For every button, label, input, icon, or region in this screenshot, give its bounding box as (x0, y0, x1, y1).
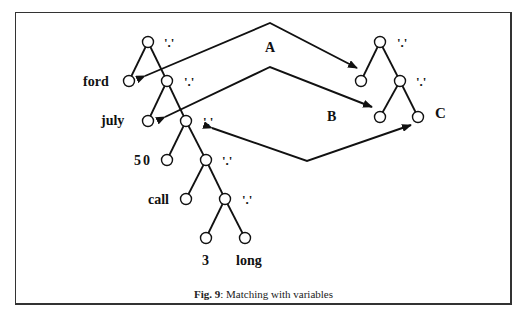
right-tree: '.' '.' C (356, 35, 446, 123)
right-root-node (375, 37, 386, 48)
label-july: july (100, 113, 124, 128)
left-tree-operator-labels: '.' '.' '.' '.' '.' (164, 35, 252, 207)
figure-caption: Fig. 9: Matching with variables (0, 288, 527, 300)
label-A: A (265, 40, 276, 55)
left-tree-leaf-labels: ford july 50 call 3 long (83, 74, 262, 268)
svg-text:'.': '.' (397, 35, 407, 50)
arrow-C (212, 125, 411, 161)
right-leaf-1-node (356, 76, 367, 87)
svg-text:'.': '.' (164, 35, 174, 50)
label-B: B (327, 109, 336, 124)
label-50: 50 (134, 153, 152, 168)
label-long: long (236, 253, 262, 268)
leaf-50-node (162, 155, 173, 166)
label-3: 3 (202, 253, 209, 268)
leaf-ford-node (124, 76, 135, 87)
label-ford: ford (83, 74, 109, 89)
svg-text:'.': '.' (242, 192, 252, 207)
left-node-2 (162, 76, 173, 87)
svg-text:'.': '.' (222, 153, 232, 168)
left-node-3 (181, 116, 192, 127)
leaf-3-node (201, 233, 212, 244)
caption-text: : Matching with variables (220, 288, 333, 300)
right-node-2 (395, 76, 406, 87)
tree-matching-diagram: '.' '.' '.' '.' '.' ford july 50 call 3 … (0, 0, 527, 318)
right-leaf-2-node (375, 112, 386, 123)
left-node-5 (220, 194, 231, 205)
leaf-july-node (143, 116, 154, 127)
svg-text:'.': '.' (416, 74, 426, 89)
left-node-4 (201, 155, 212, 166)
matching-arrows: A B (145, 23, 411, 161)
left-tree-edges (129, 42, 245, 238)
caption-prefix: Fig. 9 (194, 288, 220, 300)
arrow-B (165, 67, 372, 117)
left-root-node (143, 37, 154, 48)
svg-text:'.': '.' (184, 74, 194, 89)
label-variable-C: C (435, 105, 446, 121)
svg-text:'.': '.' (203, 114, 213, 129)
leaf-call-node (181, 194, 192, 205)
leaf-long-node (240, 233, 251, 244)
right-leaf-3-node (413, 112, 424, 123)
label-call: call (148, 192, 169, 207)
arrow-A (145, 23, 357, 76)
